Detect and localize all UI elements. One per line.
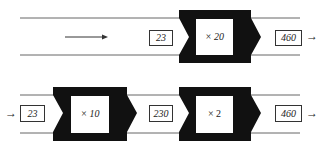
bottom-output-value: 460 xyxy=(276,107,301,121)
top-arrow-icon xyxy=(65,35,108,40)
top-input-value: 23 xyxy=(150,31,172,45)
bottom-input-arrow-icon: → xyxy=(4,106,18,120)
top-input-box: 23 xyxy=(149,30,173,46)
bottom-machine-x2-label: × 2 xyxy=(196,107,233,121)
bottom-intermediate-box: 230 xyxy=(149,105,173,122)
top-output-arrow-icon: → xyxy=(304,29,320,43)
bottom-input-value: 23 xyxy=(21,107,44,121)
top-output-box: 460 xyxy=(275,30,302,46)
diagram-canvas xyxy=(0,0,328,150)
bottom-output-box: 460 xyxy=(275,105,302,122)
top-output-value: 460 xyxy=(276,31,301,45)
bottom-machine-x10-label: × 10 xyxy=(71,107,109,121)
bottom-input-box: 23 xyxy=(20,105,45,122)
bottom-intermediate-value: 230 xyxy=(150,107,172,121)
top-machine-x20-label: × 20 xyxy=(196,30,233,44)
bottom-output-arrow-icon: → xyxy=(304,106,320,120)
